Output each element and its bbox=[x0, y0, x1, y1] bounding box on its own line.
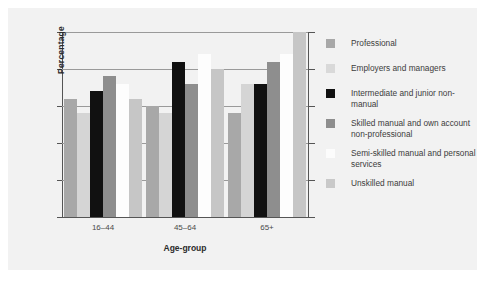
chart-figure: 0510152025 16–4445–6465+ Age-group Perce… bbox=[0, 0, 485, 281]
bar bbox=[211, 69, 224, 217]
y-tick-10 bbox=[57, 143, 62, 144]
legend-item: Skilled manual and own account non-profe… bbox=[326, 118, 476, 139]
legend-item: Professional bbox=[326, 38, 476, 54]
legend-swatch-icon bbox=[326, 39, 335, 48]
y-axis-title: Percentage bbox=[56, 0, 66, 110]
bar bbox=[267, 62, 280, 217]
y-tick-right-0 bbox=[309, 217, 315, 218]
bar bbox=[228, 113, 241, 217]
legend-swatch-icon bbox=[326, 64, 335, 73]
bar-group bbox=[64, 32, 142, 217]
bar bbox=[185, 84, 198, 217]
legend-item: Employers and managers bbox=[326, 63, 476, 79]
legend-item-label: Employers and managers bbox=[351, 63, 476, 74]
x-tick-label: 45–64 bbox=[140, 223, 230, 232]
bar-group bbox=[146, 32, 224, 217]
legend-item-label: Intermediate and junior non-manual bbox=[351, 88, 476, 109]
legend-swatch-icon bbox=[326, 119, 335, 128]
legend-item-label: Professional bbox=[351, 38, 476, 49]
legend-item-label: Unskilled manual bbox=[351, 178, 476, 189]
bar bbox=[198, 54, 211, 217]
right-axis-line bbox=[308, 32, 309, 218]
y-tick-right-15 bbox=[309, 106, 315, 107]
bar bbox=[90, 91, 103, 217]
bar bbox=[146, 106, 159, 217]
bar-group bbox=[228, 32, 306, 217]
legend-swatch-icon bbox=[326, 89, 335, 98]
bar bbox=[129, 99, 142, 217]
legend-item: Unskilled manual bbox=[326, 178, 476, 194]
bar bbox=[77, 113, 90, 217]
legend-item: Semi-skilled manual and personal service… bbox=[326, 148, 476, 169]
y-tick-5 bbox=[57, 180, 62, 181]
bar bbox=[64, 99, 77, 217]
bar bbox=[172, 62, 185, 217]
legend-swatch-icon bbox=[326, 149, 335, 158]
legend-item: Intermediate and junior non-manual bbox=[326, 88, 476, 109]
chart-legend: ProfessionalEmployers and managersInterm… bbox=[326, 38, 476, 203]
x-tick-label: 65+ bbox=[222, 223, 312, 232]
y-tick-right-25 bbox=[309, 32, 315, 33]
x-axis-line bbox=[62, 217, 309, 218]
bar bbox=[103, 76, 116, 217]
legend-swatch-icon bbox=[326, 179, 335, 188]
y-tick-right-10 bbox=[309, 143, 315, 144]
plot-area: 0510152025 16–4445–6465+ Age-group Perce… bbox=[62, 32, 308, 218]
x-axis-title: Age-group bbox=[62, 243, 308, 253]
legend-item-label: Skilled manual and own account non-profe… bbox=[351, 118, 476, 139]
bar bbox=[254, 84, 267, 217]
bar bbox=[280, 54, 293, 217]
bar bbox=[159, 113, 172, 217]
y-tick-right-5 bbox=[309, 180, 315, 181]
bar bbox=[293, 32, 306, 217]
bar bbox=[116, 84, 129, 217]
legend-item-label: Semi-skilled manual and personal service… bbox=[351, 148, 476, 169]
x-tick-label: 16–44 bbox=[58, 223, 148, 232]
y-tick-right-20 bbox=[309, 69, 315, 70]
bar bbox=[241, 84, 254, 217]
y-tick-0 bbox=[57, 217, 62, 218]
